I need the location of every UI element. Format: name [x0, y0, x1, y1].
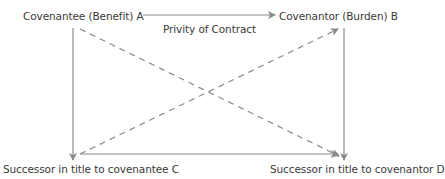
node-b-label: Covenantor (Burden) B [279, 10, 398, 22]
edge-c-to-b-dashed [80, 29, 338, 154]
node-a-label: Covenantee (Benefit) A [23, 10, 144, 22]
node-c-label: Successor in title to covenantee C [3, 163, 179, 175]
edge-a-to-b-label: Privity of Contract [163, 23, 256, 35]
edge-a-to-d-dashed [80, 29, 339, 156]
node-d-label: Successor in title to covenantor D [270, 163, 445, 175]
